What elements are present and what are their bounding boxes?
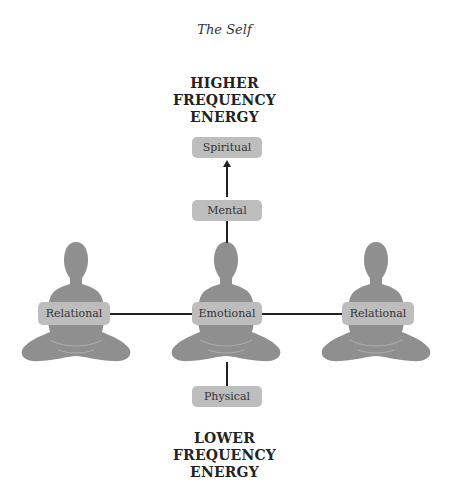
connector-emotional-relational-right bbox=[262, 313, 342, 315]
connector-mental-spiritual bbox=[226, 165, 228, 197]
node-label: Relational bbox=[46, 307, 103, 320]
arrow-up-icon bbox=[222, 160, 232, 168]
label-line: HIGHER bbox=[0, 75, 449, 92]
node-mental: Mental bbox=[192, 200, 262, 221]
label-line: FREQUENCY bbox=[0, 447, 449, 464]
node-label: Relational bbox=[350, 307, 407, 320]
diagram-title: The Self bbox=[0, 22, 449, 37]
label-line: ENERGY bbox=[0, 109, 449, 126]
higher-frequency-energy-label: HIGHER FREQUENCY ENERGY bbox=[0, 75, 449, 126]
lower-frequency-energy-label: LOWER FREQUENCY ENERGY bbox=[0, 430, 449, 481]
connector-emotional-physical bbox=[226, 362, 228, 386]
node-emotional: Emotional bbox=[192, 302, 262, 325]
node-physical: Physical bbox=[192, 386, 262, 407]
node-label: Spiritual bbox=[203, 141, 251, 154]
label-line: FREQUENCY bbox=[0, 92, 449, 109]
node-label: Physical bbox=[204, 390, 250, 403]
node-spiritual: Spiritual bbox=[192, 137, 262, 158]
node-relational-left: Relational bbox=[38, 302, 110, 325]
label-line: LOWER bbox=[0, 430, 449, 447]
node-relational-right: Relational bbox=[342, 302, 414, 325]
connector-mental-emotional bbox=[226, 221, 228, 243]
connector-relational-left-emotional bbox=[110, 313, 194, 315]
label-line: ENERGY bbox=[0, 464, 449, 481]
node-label: Emotional bbox=[199, 307, 256, 320]
node-label: Mental bbox=[207, 204, 246, 217]
